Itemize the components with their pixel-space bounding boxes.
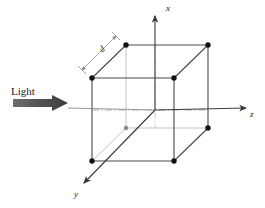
figure-canvas: x y z d Light <box>0 0 265 208</box>
light-arrow-shape <box>13 95 68 111</box>
dimension-line-d <box>78 32 120 74</box>
dimension-arrow <box>82 36 116 70</box>
cube-edge <box>92 45 126 78</box>
cube-edge <box>174 128 208 161</box>
cube-vertex <box>205 125 210 130</box>
cube-vertex <box>205 42 210 47</box>
y-axis-line <box>84 110 155 183</box>
cube-vertex <box>123 42 128 47</box>
cube-vertex <box>89 75 94 80</box>
cube-edge <box>174 45 208 78</box>
y-axis-label: y <box>74 190 78 199</box>
cube-vertex <box>171 158 176 163</box>
x-axis-label: x <box>166 4 170 13</box>
axis-hidden-segments <box>92 45 208 146</box>
cube-vertex-hidden <box>124 126 128 130</box>
z-axis-label: z <box>250 110 254 119</box>
light-label: Light <box>11 86 35 97</box>
cube-vertex <box>171 75 176 80</box>
diagram-svg <box>0 0 265 208</box>
light-arrow <box>13 95 68 111</box>
cube-vertex <box>89 158 94 163</box>
